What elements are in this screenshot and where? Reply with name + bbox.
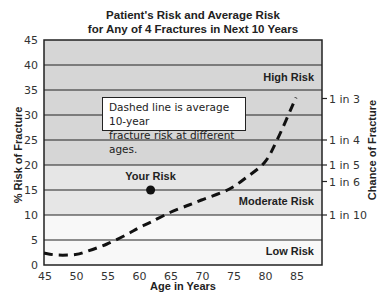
y-axis-label: % Risk of Fracture — [12, 107, 24, 204]
y-tick-label: 30 — [24, 109, 38, 122]
y-tick-label: 15 — [24, 184, 38, 197]
y-tick-label: 5 — [31, 234, 38, 247]
y2-tick-label: 1 in 3 — [329, 93, 360, 106]
band-label: Low Risk — [266, 245, 315, 257]
your-risk-label: Your Risk — [125, 170, 176, 182]
band-label: Moderate Risk — [239, 195, 315, 207]
y-tick-label: 10 — [24, 209, 38, 222]
x-tick-label: 60 — [133, 270, 147, 283]
y2-axis-label: Chance of Fracture — [366, 100, 378, 200]
x-tick-label: 85 — [290, 270, 304, 283]
note-line-1: Dashed line is average 10-year — [109, 100, 245, 128]
y2-tick-label: 1 in 10 — [329, 209, 367, 222]
y2-tick-label: 1 in 5 — [329, 159, 360, 172]
y-tick-label: 45 — [24, 34, 38, 47]
x-tick-label: 45 — [38, 270, 52, 283]
x-tick-label: 80 — [259, 270, 273, 283]
y2-tick-label: 1 in 6 — [329, 176, 360, 189]
y2-tick-label: 1 in 4 — [329, 134, 360, 147]
legend-note-box: Dashed line is average 10-year fracture … — [102, 97, 246, 131]
y-tick-label: 35 — [24, 84, 38, 97]
y-tick-label: 20 — [24, 159, 38, 172]
x-tick-label: 55 — [101, 270, 115, 283]
your-risk-marker — [146, 186, 155, 195]
y-tick-label: 0 — [31, 259, 38, 272]
x-tick-label: 75 — [227, 270, 241, 283]
y-tick-label: 25 — [24, 134, 38, 147]
note-line-2: fracture risk at different ages. — [109, 128, 245, 156]
band-label: High Risk — [263, 71, 315, 83]
x-axis-label: Age in Years — [150, 280, 216, 292]
x-tick-label: 50 — [70, 270, 84, 283]
y-tick-label: 40 — [24, 59, 38, 72]
